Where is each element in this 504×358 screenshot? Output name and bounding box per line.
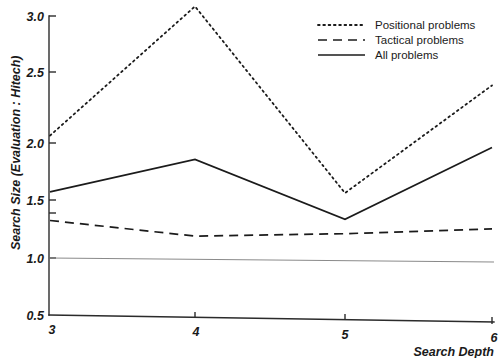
y-tick-label-1-5: 1.5 xyxy=(27,194,45,208)
series-tactical-problems xyxy=(50,221,492,237)
y-tick-label-1-0: 1.0 xyxy=(27,252,44,266)
x-axis-line xyxy=(49,315,494,322)
reference-line-baseline xyxy=(49,258,494,262)
legend-label-all-problems: All problems xyxy=(375,49,439,61)
x-tick-label-6: 6 xyxy=(491,331,499,345)
x-axis-title: Search Depth xyxy=(413,345,494,358)
legend-label-positional-problems: Positional problems xyxy=(375,19,476,31)
series-all-problems xyxy=(50,148,492,220)
chart-container: 3.0 2.5 2.0 1.5 1.0 0.5 3 4 5 6 Search S… xyxy=(0,0,504,358)
y-tick-label-2-5: 2.5 xyxy=(26,66,45,80)
y-tick-label-2-0: 2.0 xyxy=(26,137,44,151)
x-tick-label-5: 5 xyxy=(342,328,350,342)
legend-item-positional-problems[interactable]: Positional problems xyxy=(318,19,476,31)
legend-label-tactical-problems: Tactical problems xyxy=(375,34,464,46)
y-axis-title: Search Size (Evaluation : Hitech) xyxy=(9,56,23,251)
y-tick-label-3-0: 3.0 xyxy=(27,10,44,24)
legend: Positional problems Tactical problems Al… xyxy=(318,19,476,61)
y-tick-label-0-5: 0.5 xyxy=(27,309,45,323)
legend-item-all-problems[interactable]: All problems xyxy=(318,49,439,61)
legend-item-tactical-problems[interactable]: Tactical problems xyxy=(318,34,464,46)
x-tick-label-3: 3 xyxy=(49,323,56,337)
x-tick-label-4: 4 xyxy=(192,325,200,339)
line-chart: 3.0 2.5 2.0 1.5 1.0 0.5 3 4 5 6 Search S… xyxy=(0,0,504,358)
